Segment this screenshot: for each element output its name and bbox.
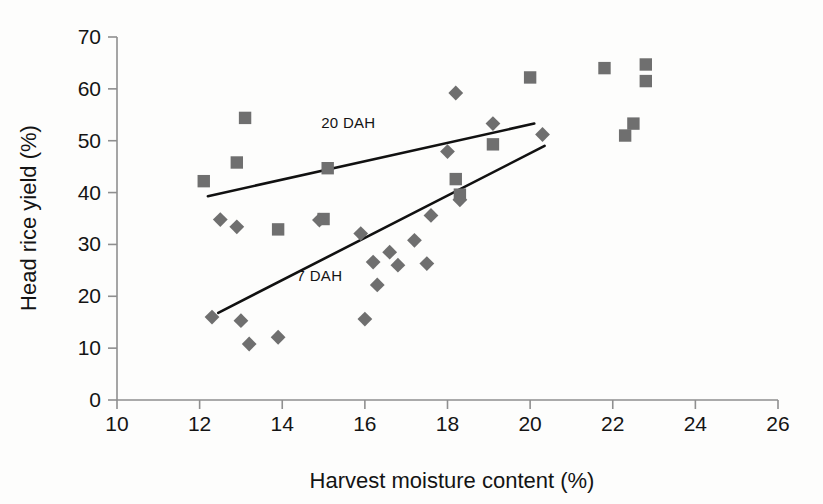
y-tick-label: 10 <box>78 336 101 359</box>
data-point-diamond <box>448 86 463 101</box>
series-annotations: 20 DAH7 DAH <box>297 114 376 284</box>
scatter-chart: 101214161820222426 010203040506070 20 DA… <box>0 0 823 504</box>
x-tick-label: 22 <box>601 412 624 435</box>
y-tick-label: 70 <box>78 25 101 48</box>
data-point-diamond <box>486 116 501 131</box>
data-point-diamond <box>419 256 434 271</box>
y-tick-label: 30 <box>78 232 101 255</box>
plot-area: 101214161820222426 010203040506070 20 DA… <box>0 0 823 504</box>
data-point-square <box>524 71 536 83</box>
data-point-square <box>487 138 499 150</box>
series-label-1: 7 DAH <box>297 267 343 284</box>
data-point-square <box>239 112 251 124</box>
x-tick-label: 26 <box>766 412 789 435</box>
data-point-diamond <box>370 277 385 292</box>
x-tick-label: 12 <box>188 412 211 435</box>
y-axis-title: Head rice yield (%) <box>16 125 41 311</box>
data-point-square <box>272 223 284 235</box>
y-tick-label: 0 <box>89 388 101 411</box>
x-tick-label: 20 <box>518 412 541 435</box>
data-point-diamond <box>424 208 439 223</box>
data-point-diamond <box>440 144 455 159</box>
data-point-square <box>321 162 333 174</box>
data-point-diamond <box>407 233 422 248</box>
tick-marks <box>108 37 778 409</box>
data-point-diamond <box>357 312 372 327</box>
x-tick-label: 24 <box>684 412 708 435</box>
data-point-diamond <box>535 127 550 142</box>
trend-line-20-dah <box>208 124 534 197</box>
data-point-diamond <box>382 245 397 260</box>
data-point-square <box>640 58 652 70</box>
data-point-diamond <box>366 255 381 270</box>
data-point-square <box>198 175 210 187</box>
data-point-diamond <box>229 219 244 234</box>
series-label-0: 20 DAH <box>321 114 375 131</box>
data-point-square <box>627 117 639 129</box>
data-markers <box>198 58 652 351</box>
y-tick-label: 40 <box>78 181 101 204</box>
data-point-square <box>640 75 652 87</box>
y-tick-labels: 010203040506070 <box>78 25 101 411</box>
x-tick-labels: 101214161820222426 <box>105 412 789 435</box>
data-point-diamond <box>205 310 220 325</box>
x-tick-label: 14 <box>271 412 295 435</box>
data-point-diamond <box>213 212 228 227</box>
y-tick-label: 50 <box>78 129 101 152</box>
data-point-diamond <box>242 337 257 352</box>
x-tick-label: 18 <box>436 412 459 435</box>
data-point-diamond <box>234 313 249 328</box>
x-tick-label: 16 <box>353 412 376 435</box>
x-axis-title: Harvest moisture content (%) <box>310 468 595 493</box>
y-tick-label: 20 <box>78 284 101 307</box>
y-tick-label: 60 <box>78 77 101 100</box>
data-point-square <box>619 129 631 141</box>
data-point-diamond <box>391 258 406 273</box>
data-point-square <box>450 173 462 185</box>
data-point-square <box>598 62 610 74</box>
data-point-diamond <box>271 330 286 345</box>
x-tick-label: 10 <box>105 412 128 435</box>
data-point-square <box>231 156 243 168</box>
